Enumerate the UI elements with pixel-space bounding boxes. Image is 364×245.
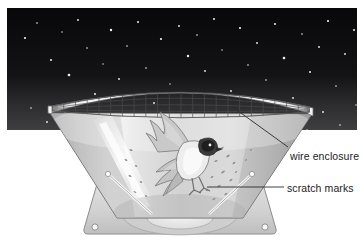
star xyxy=(322,111,324,113)
star xyxy=(196,34,198,36)
star xyxy=(30,107,32,109)
label-wire-enclosure: wire enclosure xyxy=(290,150,359,162)
star xyxy=(344,53,346,55)
star xyxy=(213,18,215,20)
star xyxy=(160,38,162,40)
star xyxy=(50,59,52,61)
star xyxy=(118,78,120,80)
star xyxy=(169,83,170,84)
star xyxy=(61,31,62,32)
star xyxy=(137,21,139,23)
label-scratch-marks: scratch marks xyxy=(287,182,354,194)
star xyxy=(153,102,155,104)
star xyxy=(46,121,48,123)
star xyxy=(355,104,356,105)
star xyxy=(204,70,206,72)
star xyxy=(339,124,341,126)
star xyxy=(68,74,71,77)
star xyxy=(126,45,128,47)
corner-hole-right xyxy=(262,224,268,230)
star xyxy=(36,22,38,24)
star xyxy=(265,79,267,81)
star xyxy=(145,67,147,69)
star xyxy=(239,27,241,29)
star xyxy=(94,93,96,95)
star xyxy=(318,46,320,48)
star xyxy=(102,63,103,64)
star xyxy=(301,33,303,35)
star xyxy=(306,129,308,131)
bird-eye xyxy=(209,144,212,147)
star xyxy=(292,97,294,99)
star xyxy=(86,47,88,49)
star xyxy=(24,37,26,39)
star xyxy=(230,90,232,92)
star xyxy=(335,85,337,87)
star xyxy=(247,64,249,66)
star xyxy=(353,29,355,31)
star xyxy=(221,49,222,50)
star xyxy=(327,20,329,22)
star xyxy=(283,57,286,60)
star xyxy=(110,29,112,31)
star xyxy=(187,55,189,57)
star xyxy=(256,42,258,44)
star xyxy=(309,71,311,73)
star xyxy=(178,25,180,27)
illustration-canvas xyxy=(0,0,364,245)
star xyxy=(77,19,79,21)
star xyxy=(274,23,276,25)
corner-hole-left xyxy=(92,224,98,230)
